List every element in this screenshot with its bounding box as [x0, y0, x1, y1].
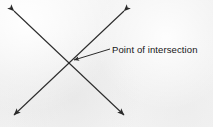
diagram-canvas [0, 0, 213, 127]
intersection-diagram-figure: Point of intersection [0, 0, 213, 127]
point-of-intersection-label: Point of intersection [112, 44, 198, 56]
leader-arrow-to-intersection [74, 49, 110, 60]
